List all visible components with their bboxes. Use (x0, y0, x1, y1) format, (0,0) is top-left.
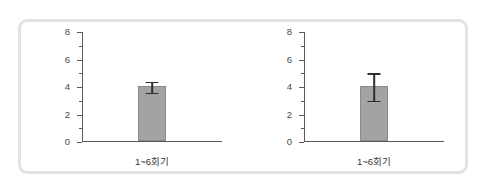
error-bar-cap-top (146, 82, 159, 84)
y-tick-label: 2 (287, 110, 292, 120)
error-bar-cap-bottom (368, 101, 381, 103)
y-tick-major: 0 (77, 142, 82, 143)
error-bar-cap-bottom (146, 93, 159, 95)
error-bar-line (373, 73, 375, 101)
y-tick-major: 0 (299, 142, 304, 143)
y-tick-major: 6 (299, 60, 304, 61)
y-tick-major: 8 (299, 32, 304, 33)
y-tick-label: 0 (65, 137, 70, 147)
y-tick-major: 6 (77, 60, 82, 61)
chart-panel: 02468 1~6회기 02468 1~6회기 (18, 19, 468, 174)
chart-left: 02468 1~6회기 (32, 22, 232, 172)
y-tick-minor (79, 128, 82, 129)
y-axis-line-right (304, 32, 305, 142)
chart-right: 02468 1~6회기 (254, 22, 454, 172)
y-tick-major: 8 (77, 32, 82, 33)
plot-area-right: 02468 (304, 32, 444, 142)
x-axis-label-right: 1~6회기 (304, 154, 444, 168)
y-axis-line-left (82, 32, 83, 142)
y-tick-minor (301, 73, 304, 74)
y-tick-major: 4 (77, 87, 82, 88)
charts-container: 02468 1~6회기 02468 1~6회기 (21, 22, 465, 171)
y-tick-minor (301, 128, 304, 129)
error-bar-line (151, 82, 153, 93)
y-tick-label: 4 (65, 82, 70, 92)
bar (138, 86, 166, 141)
y-tick-label: 2 (65, 110, 70, 120)
y-tick-minor (79, 73, 82, 74)
y-tick-label: 8 (287, 27, 292, 37)
error-bar-cap-top (368, 73, 381, 75)
y-tick-minor (79, 46, 82, 47)
y-tick-major: 2 (77, 115, 82, 116)
y-tick-label: 8 (65, 27, 70, 37)
y-tick-label: 6 (287, 55, 292, 65)
y-tick-label: 4 (287, 82, 292, 92)
x-axis-line-left (82, 141, 222, 142)
y-tick-major: 4 (299, 87, 304, 88)
x-axis-label-left: 1~6회기 (82, 154, 222, 168)
y-tick-label: 6 (65, 55, 70, 65)
y-tick-minor (301, 101, 304, 102)
y-tick-minor (79, 101, 82, 102)
x-axis-line-right (304, 141, 444, 142)
y-tick-label: 0 (287, 137, 292, 147)
y-tick-minor (301, 46, 304, 47)
y-tick-major: 2 (299, 115, 304, 116)
plot-area-left: 02468 (82, 32, 222, 142)
